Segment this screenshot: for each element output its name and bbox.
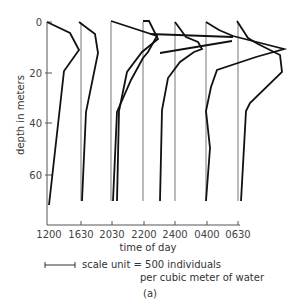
x-tick-label: 2030 <box>99 229 124 240</box>
x-tick-label: 2400 <box>162 229 187 240</box>
x-ticks: 1200 1630 2030 2200 2400 0400 0630 <box>36 221 250 240</box>
y-tick-label: 20 <box>29 68 42 79</box>
scale-note-line1: scale unit = 500 individuals <box>82 259 221 270</box>
panel-label: (a) <box>143 288 157 299</box>
y-tick-label: 0 <box>36 17 42 28</box>
profile-1630 <box>79 22 98 201</box>
profile-0630 <box>237 21 282 201</box>
profile-2200 <box>117 21 158 201</box>
x-tick-label: 0400 <box>194 229 219 240</box>
scale-note-line2: per cubic meter of water <box>140 272 265 283</box>
x-tick-label: 0630 <box>225 229 250 240</box>
profile-0400-surface <box>150 34 233 37</box>
x-tick-label: 2200 <box>131 229 156 240</box>
y-tick-label: 40 <box>29 118 42 129</box>
abundance-profiles <box>47 21 284 205</box>
vertical-distribution-chart: 0 20 40 60 depth in meters 1200 1630 203… <box>0 0 303 305</box>
x-tick-label: 1630 <box>68 229 93 240</box>
profile-baselines <box>81 22 238 201</box>
x-axis-title: time of day <box>120 242 177 253</box>
y-tick-label: 60 <box>29 170 42 181</box>
x-tick-label: 1200 <box>36 229 61 240</box>
y-axis-title: depth in meters <box>15 75 26 155</box>
y-ticks: 0 20 40 60 <box>29 17 52 181</box>
scale-bar <box>45 262 75 268</box>
profile-1200 <box>47 22 79 205</box>
profile-0400 <box>206 22 284 201</box>
